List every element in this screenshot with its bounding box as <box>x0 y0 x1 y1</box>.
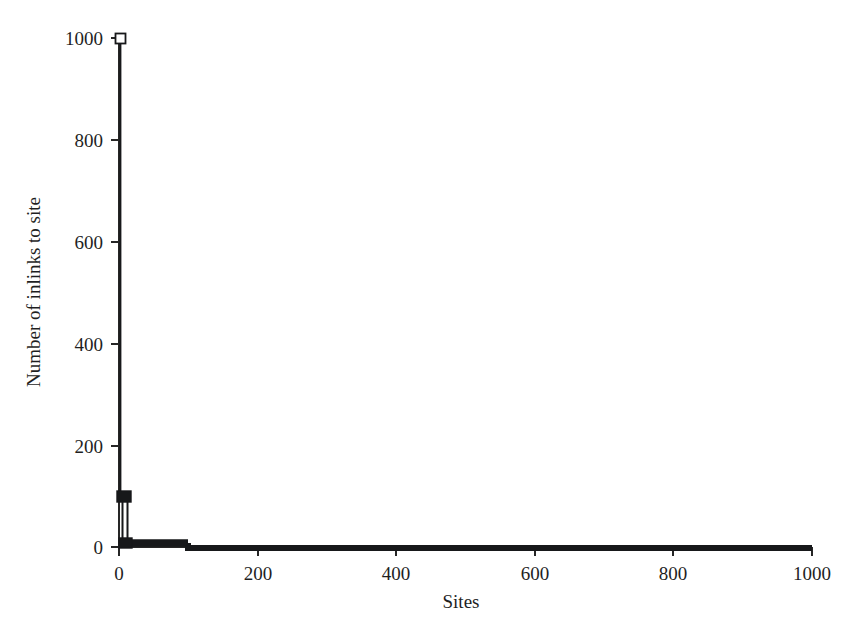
y-tick-label-600: 600 <box>75 232 104 253</box>
y-tick-label-800: 800 <box>75 130 104 151</box>
y-axis-title: Number of inlinks to site <box>23 197 44 387</box>
x-tick-label-0: 0 <box>114 563 124 584</box>
x-tick-label-400: 400 <box>382 563 411 584</box>
data-markers <box>116 34 133 549</box>
y-axis-ticks <box>111 38 119 547</box>
x-tick-label-200: 200 <box>244 563 273 584</box>
chart-figure: 1000 800 600 400 200 0 0 200 400 600 800… <box>0 0 852 631</box>
y-axis-tick-labels: 1000 800 600 400 200 0 <box>65 28 103 558</box>
y-tick-label-200: 200 <box>75 436 104 457</box>
chart-canvas: 1000 800 600 400 200 0 0 200 400 600 800… <box>0 0 852 631</box>
axes-group <box>119 38 812 547</box>
x-tick-label-1000: 1000 <box>793 563 831 584</box>
data-plunge-segment <box>120 38 122 497</box>
marker-filled-square-tail <box>119 538 132 548</box>
x-tick-label-800: 800 <box>659 563 688 584</box>
data-tail-band <box>188 543 812 548</box>
x-axis-title: Sites <box>443 591 480 612</box>
marker-open-square-top <box>116 34 126 44</box>
y-tick-label-0: 0 <box>94 537 104 558</box>
x-tick-label-600: 600 <box>521 563 550 584</box>
marker-filled-square-knee <box>117 491 131 502</box>
x-axis-tick-labels: 0 200 400 600 800 1000 <box>114 563 831 584</box>
data-knee-segment <box>123 497 128 542</box>
data-series-inlinks <box>120 38 812 548</box>
y-tick-label-400: 400 <box>75 334 104 355</box>
y-tick-label-1000: 1000 <box>65 28 103 49</box>
